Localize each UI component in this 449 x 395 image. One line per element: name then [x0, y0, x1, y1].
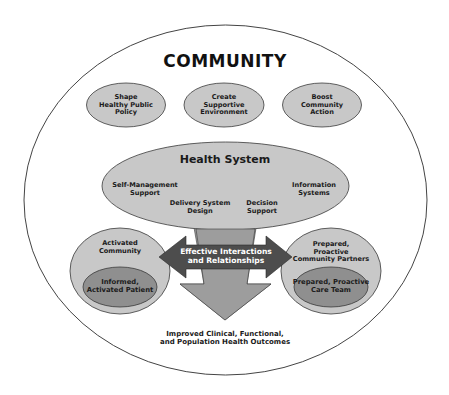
community-partners-label: Prepared, Proactive Community Partners [293, 241, 369, 264]
policy-label-shape: Shape Healthy Public Policy [99, 94, 153, 117]
informed-patient-label: Informed, Activated Patient [87, 279, 154, 295]
interaction-arrow-label: Effective Interactions and Relationships [180, 248, 272, 265]
policy-label-boost: Boost Community Action [301, 94, 343, 117]
policy-label-create: Create Supportive Environment [200, 94, 247, 117]
outcome-label: Improved Clinical, Functional, and Popul… [160, 330, 290, 346]
component-decision-support: Decision Support [246, 200, 278, 215]
care-team-label: Prepared, Proactive Care Team [293, 279, 369, 295]
activated-community-label: Activated Community [99, 240, 141, 255]
component-information-systems: Information Systems [292, 182, 336, 197]
component-self-management: Self-Management Support [112, 182, 178, 197]
health-system-title: Health System [180, 154, 271, 167]
community-title: COMMUNITY [163, 52, 287, 72]
component-delivery-system: Delivery System Design [170, 200, 231, 215]
